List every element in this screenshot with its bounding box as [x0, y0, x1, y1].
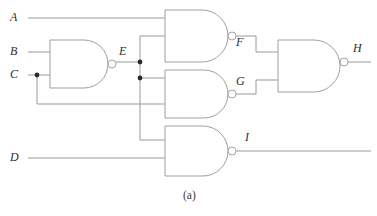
junction-dot-e-lower — [138, 76, 143, 81]
input-label-b: B — [10, 45, 17, 57]
nand-gate-g-inversion-bubble-icon — [228, 90, 236, 98]
nand-gate-i — [165, 126, 236, 176]
output-label-h: H — [353, 42, 362, 54]
input-label-d: D — [10, 151, 19, 163]
nand-gate-i-inversion-bubble-icon — [228, 147, 236, 155]
signal-label-e: E — [119, 45, 126, 57]
junction-dot-e-upper — [138, 60, 143, 65]
junction-dot-c — [35, 73, 40, 78]
nand-gate-e-inversion-bubble-icon — [108, 60, 116, 68]
nand-gate-f-inversion-bubble-icon — [228, 32, 236, 40]
signal-label-g: G — [236, 75, 245, 87]
circuit-schematic-canvas — [0, 0, 377, 216]
signal-label-i: I — [245, 131, 249, 143]
signal-label-f: F — [236, 36, 243, 48]
nand-gate-f — [165, 10, 236, 62]
nand-gate-e-body — [50, 40, 108, 88]
nand-gate-h — [278, 40, 348, 92]
nand-gate-f-body — [165, 10, 228, 62]
figure-caption: (a) — [183, 190, 196, 202]
nand-gate-i-body — [165, 126, 228, 176]
nand-gate-h-inversion-bubble-icon — [340, 58, 348, 66]
wire-c-branch-to-gate-g — [37, 75, 165, 104]
nand-gate-e — [50, 40, 116, 88]
junctions-layer — [35, 60, 143, 81]
input-label-a: A — [10, 11, 17, 23]
nand-gate-g-body — [165, 70, 228, 118]
input-label-c: C — [10, 68, 18, 80]
logic-circuit-figure: A B C D E F G I H (a) — [0, 0, 377, 216]
nand-gate-g — [165, 70, 236, 118]
wire-e-to-gate-f — [140, 36, 165, 62]
nand-gate-h-body — [278, 40, 340, 92]
